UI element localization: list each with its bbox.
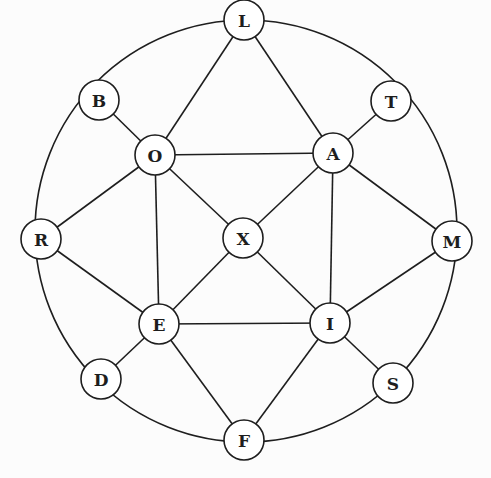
- edge-I-F: [244, 323, 330, 440]
- node-label: S: [387, 374, 399, 394]
- node-L: L: [224, 0, 264, 40]
- node-M: M: [432, 221, 472, 261]
- node-I: I: [310, 303, 350, 343]
- edge-A-M: [333, 153, 452, 241]
- edge-R-E: [41, 239, 159, 324]
- node-label: O: [148, 146, 163, 166]
- node-label: T: [385, 92, 398, 112]
- node-B: B: [79, 80, 119, 120]
- graph-canvas: LBTOARXMEIDSF: [0, 0, 491, 478]
- edge-M-I: [330, 241, 452, 323]
- node-label: B: [92, 91, 106, 111]
- edge-O-R: [41, 155, 155, 239]
- edge-O-E: [155, 155, 159, 324]
- node-D: D: [81, 359, 121, 399]
- edge-L-A: [244, 20, 333, 153]
- node-label: D: [94, 370, 109, 390]
- edge-L-O: [155, 20, 244, 155]
- node-label: R: [34, 230, 49, 250]
- edge-E-F: [159, 324, 244, 440]
- node-label: E: [153, 315, 166, 335]
- node-label: A: [325, 144, 340, 164]
- node-label: I: [326, 314, 334, 334]
- node-F: F: [224, 420, 264, 460]
- node-O: O: [135, 135, 175, 175]
- node-label: F: [238, 431, 250, 451]
- graph-nodes: LBTOARXMEIDSF: [21, 0, 472, 460]
- node-R: R: [21, 219, 61, 259]
- node-A: A: [313, 133, 353, 173]
- edge-E-I: [159, 323, 330, 324]
- graph-diagram: LBTOARXMEIDSF: [0, 0, 491, 478]
- node-X: X: [223, 218, 263, 258]
- node-label: M: [443, 232, 462, 252]
- node-S: S: [373, 363, 413, 403]
- node-label: L: [238, 11, 250, 31]
- node-label: X: [236, 229, 250, 249]
- edge-A-I: [330, 153, 333, 323]
- edge-O-A: [155, 153, 333, 155]
- node-T: T: [371, 81, 411, 121]
- node-E: E: [139, 304, 179, 344]
